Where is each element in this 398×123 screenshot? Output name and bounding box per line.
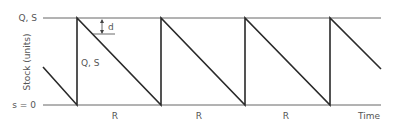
- arrow-down-icon: [100, 30, 104, 34]
- inventory-sawtooth-diagram: Q, S s = 0 Stock (units) d Q, S R R R Ti…: [0, 0, 398, 123]
- y-axis-label: Stock (units): [22, 34, 32, 91]
- bottom-level-label: s = 0: [12, 100, 36, 110]
- period-label: R: [283, 111, 289, 121]
- top-level-label: Q, S: [18, 13, 37, 23]
- x-axis-label: Time: [357, 111, 380, 121]
- diagram-canvas: Q, S s = 0 Stock (units) d Q, S R R R Ti…: [0, 0, 398, 123]
- period-label: R: [196, 111, 202, 121]
- drop-label: Q, S: [81, 58, 100, 68]
- period-label: R: [112, 111, 118, 121]
- arrow-up-icon: [100, 19, 104, 23]
- dimension-label: d: [108, 22, 114, 32]
